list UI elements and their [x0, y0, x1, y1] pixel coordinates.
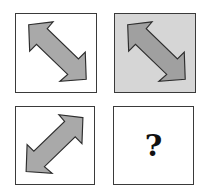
cell-top-left: [15, 13, 97, 93]
cell-top-right: [114, 13, 196, 93]
double-arrow-shape: [26, 115, 83, 174]
double-arrow-shape: [29, 22, 87, 81]
double-arrow-icon-diagonal-down: [16, 14, 96, 92]
cell-bottom-right-unknown: ?: [113, 106, 194, 185]
cell-bottom-left: [15, 106, 95, 185]
question-mark: ?: [114, 107, 193, 184]
double-arrow-icon-diagonal-down: [115, 14, 195, 92]
double-arrow-icon-diagonal-up: [16, 107, 94, 184]
double-arrow-shape: [128, 22, 186, 81]
